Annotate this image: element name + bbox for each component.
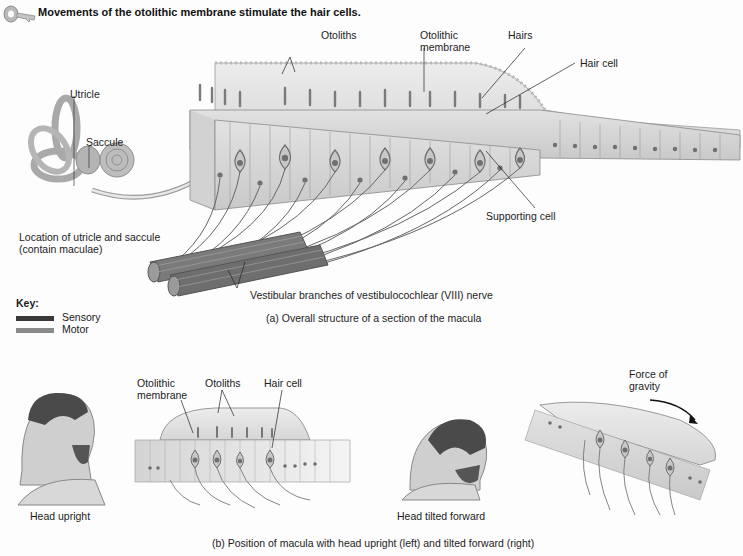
label-b-otolithic-membrane-line1: Otolithic (137, 377, 175, 389)
label-b-otoliths: Otoliths (205, 377, 241, 389)
legend-title: Key: (16, 297, 101, 309)
label-gravity-line2: gravity (629, 380, 660, 392)
label-hairs: Hairs (508, 29, 533, 41)
label-utricle: Utricle (70, 88, 100, 100)
motor-swatch (16, 328, 54, 333)
label-b-hair-cell: Hair cell (264, 377, 302, 389)
legend: Key: Sensory Motor (16, 297, 101, 335)
macula-section-a (148, 48, 740, 296)
legend-label-motor: Motor (62, 323, 89, 335)
legend-label-sensory: Sensory (62, 311, 101, 323)
head-tilted-drawing (402, 419, 487, 500)
label-otolithic-membrane-line2: membrane (420, 41, 470, 53)
label-supporting-cell: Supporting cell (486, 210, 555, 222)
label-hair-cell: Hair cell (580, 57, 618, 69)
label-head-tilted: Head tilted forward (397, 510, 485, 522)
label-otoliths: Otoliths (321, 29, 357, 41)
label-location-line2: (contain maculae) (19, 243, 102, 255)
macula-tilted-drawing (525, 400, 716, 515)
legend-item-sensory: Sensory (16, 311, 101, 323)
label-location-line1: Location of utricle and saccule (19, 231, 160, 243)
legend-item-motor: Motor (16, 323, 101, 335)
label-head-upright: Head upright (30, 510, 90, 522)
sensory-swatch (16, 316, 54, 321)
label-nerve: Vestibular branches of vestibulocochlear… (250, 289, 493, 301)
caption-a: (a) Overall structure of a section of th… (266, 312, 481, 324)
label-b-otolithic-membrane-line2: membrane (137, 389, 187, 401)
macula-illustration (0, 0, 743, 556)
label-otolithic-membrane-line1: Otolithic (420, 29, 458, 41)
head-upright-drawing (18, 393, 105, 505)
macula-upright-drawing (135, 390, 350, 508)
label-gravity-line1: Force of (629, 368, 668, 380)
caption-b: (b) Position of macula with head upright… (212, 537, 534, 549)
label-saccule: Saccule (86, 136, 123, 148)
